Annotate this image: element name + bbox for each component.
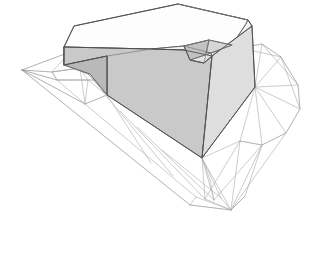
massing-render-svg (0, 0, 330, 271)
render-canvas: Architectural Massing Render (0, 0, 330, 271)
